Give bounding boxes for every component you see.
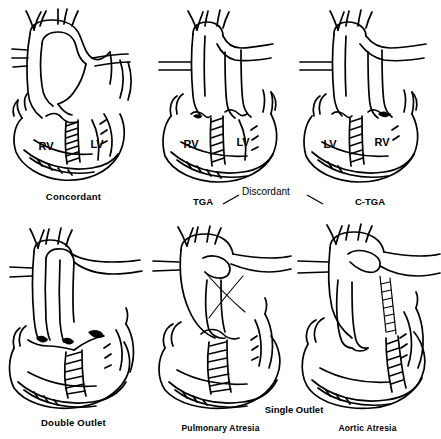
panel-caption-double-outlet: Double Outlet <box>0 417 147 428</box>
panel-caption-pulmonary-atresia: Pulmonary Atresia <box>147 423 294 433</box>
heart-drawing-c-tga: LV RV <box>294 0 441 190</box>
heart-drawing-aortic-atresia <box>294 220 441 410</box>
panel-caption-concordant: Concordant <box>0 191 147 202</box>
ventricle-label-rv: RV <box>183 138 199 150</box>
group-label-tga: TGA <box>193 196 213 207</box>
ventricle-label-lv: LV <box>236 136 250 148</box>
ventricle-label-rv: RV <box>374 136 390 148</box>
diagram-grid: RV LV Concordant <box>0 0 441 439</box>
ventricle-label-lv: LV <box>90 138 104 150</box>
panel-caption-aortic-atresia: Aortic Atresia <box>294 423 441 433</box>
ventricle-label-rv: RV <box>38 140 54 152</box>
panel-double-outlet: Double Outlet <box>0 220 147 439</box>
group-label-discordant: Discordant <box>242 186 290 197</box>
ventricle-label-lv: LV <box>323 138 337 150</box>
heart-drawing-tga: RV LV <box>147 0 294 190</box>
heart-drawing-concordant: RV LV <box>0 0 147 190</box>
group-label-c-tga: C-TGA <box>355 196 385 207</box>
panel-concordant: RV LV Concordant <box>0 0 147 219</box>
heart-drawing-pulmonary-atresia <box>147 220 294 410</box>
group-label-single-outlet: Single Outlet <box>147 404 441 415</box>
discordant-bracket: Discordant TGA C-TGA <box>147 186 441 214</box>
heart-drawing-double-outlet <box>0 220 147 410</box>
